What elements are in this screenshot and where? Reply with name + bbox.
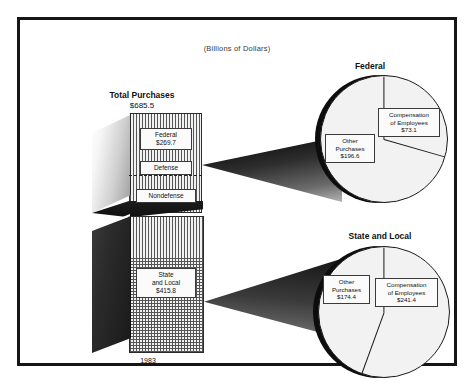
state-local-bar: State and Local $415.8 xyxy=(92,216,204,353)
federal-compensation-line1: Compensation xyxy=(381,111,437,119)
segment-label-state-local-value: $415.8 xyxy=(138,287,194,295)
pie-slice-boundary-lower-left xyxy=(360,312,384,376)
segment-label-state-local-line2: and Local xyxy=(138,279,194,287)
segment-label-nondefense: Nondefense xyxy=(136,189,196,203)
pie-disc-lower xyxy=(318,246,450,378)
state-local-slice-label-compensation: Compensation of Employees $241.4 xyxy=(375,278,438,307)
segment-label-defense: Defense xyxy=(140,161,192,175)
federal-slice-label-other: Other Purchases $196.6 xyxy=(325,134,375,163)
federal-other-value: $196.6 xyxy=(328,152,372,160)
federal-other-line2: Purchases xyxy=(328,145,372,153)
segment-label-state-local: State and Local $415.8 xyxy=(136,268,196,298)
total-purchases-title: Total Purchases xyxy=(82,90,202,100)
segment-label-nondefense-text: Nondefense xyxy=(138,192,194,200)
figure-caption: (Billions of Dollars) xyxy=(20,44,454,53)
corner-tick-icon: ⌐ xyxy=(180,116,182,121)
bar-left-face xyxy=(92,113,131,213)
state-local-compensation-line1: Compensation xyxy=(378,281,435,289)
federal-compensation-value: $73.1 xyxy=(381,126,437,134)
segment-label-state-local-line1: State xyxy=(138,271,194,279)
segment-label-federal: Federal $269.7 xyxy=(140,128,192,150)
federal-other-line1: Other xyxy=(328,137,372,145)
state-local-pie-title: State and Local xyxy=(320,231,440,241)
pie-slice-boundary-lower xyxy=(384,139,445,158)
figure-frame: (Billions of Dollars) Total Purchases $6… xyxy=(17,17,457,366)
state-local-pie-chart xyxy=(318,246,450,378)
total-purchases-bar: ⌐ Federal $269.7 Defense Nondefense xyxy=(92,113,202,213)
segment-label-federal-text: Federal xyxy=(142,131,190,139)
defense-nondefense-divider xyxy=(129,175,202,176)
segment-label-federal-value: $269.7 xyxy=(142,139,190,147)
state-local-other-value: $174.4 xyxy=(326,293,367,301)
bar-left-face-lower xyxy=(92,216,131,353)
figure-canvas: (Billions of Dollars) Total Purchases $6… xyxy=(0,0,474,388)
state-local-other-line1: Other xyxy=(326,278,367,286)
total-purchases-value: $685.5 xyxy=(82,101,202,110)
segment-label-defense-text: Defense xyxy=(142,164,190,172)
state-local-compensation-line2: of Employees xyxy=(378,289,435,297)
year-label: 1983 xyxy=(92,357,204,364)
state-local-compensation-value: $241.4 xyxy=(378,296,435,304)
state-local-slice-label-other: Other Purchases $174.4 xyxy=(323,275,370,304)
federal-pie-title: Federal xyxy=(320,61,420,71)
federal-slice-label-compensation: Compensation of Employees $73.1 xyxy=(378,108,440,137)
state-local-other-line2: Purchases xyxy=(326,286,367,294)
federal-compensation-line2: of Employees xyxy=(381,119,437,127)
